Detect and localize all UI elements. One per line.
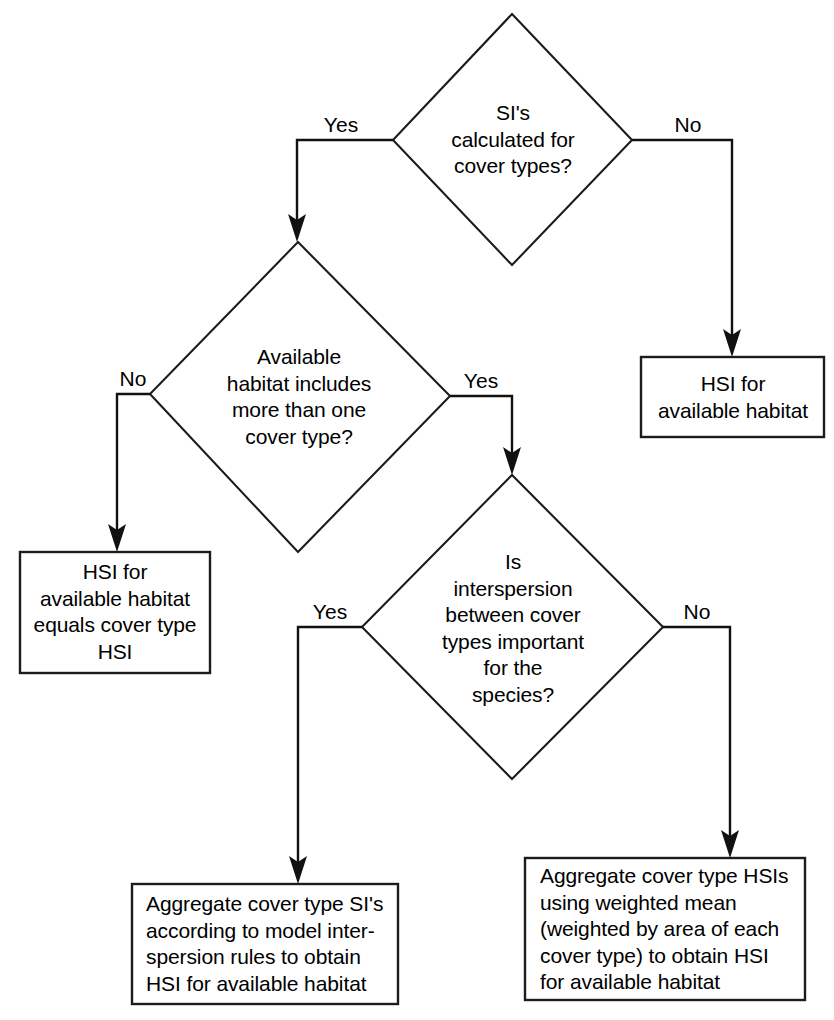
edge-si-no-line — [632, 140, 732, 343]
decision-si-cover-types-label: SI's calculated for cover types? — [403, 100, 623, 180]
box-aggregate-hsi-weighted-label: Aggregate cover type HSIs using weighted… — [540, 863, 806, 996]
edge-label-interspersion-no: No — [684, 601, 711, 623]
decision-interspersion-label: Is interspersion between cover types imp… — [398, 549, 628, 708]
box-hsi-equals-cover-type-label: HSI for available habitat equals cover t… — [18, 559, 212, 665]
edge-interspersion-no-line — [663, 627, 730, 844]
edge-interspersion-yes-line — [298, 627, 362, 870]
edge-habitat-no-line — [117, 394, 150, 538]
box-aggregate-si-interspersion-label: Aggregate cover type SI's according to m… — [146, 891, 396, 997]
edge-label-si-no: No — [675, 114, 702, 136]
decision-available-habitat-label: Available habitat includes more than one… — [179, 344, 419, 450]
box-hsi-available-habitat-label: HSI for available habitat — [643, 371, 823, 424]
edge-label-habitat-no: No — [120, 368, 147, 390]
edge-label-si-yes: Yes — [324, 114, 358, 136]
flowchart-canvas: SI's calculated for cover types? Availab… — [0, 0, 834, 1020]
edge-habitat-yes-line — [450, 396, 512, 461]
edge-label-interspersion-yes: Yes — [313, 601, 347, 623]
edge-si-yes-line — [297, 140, 393, 228]
edge-label-habitat-yes: Yes — [464, 370, 498, 392]
